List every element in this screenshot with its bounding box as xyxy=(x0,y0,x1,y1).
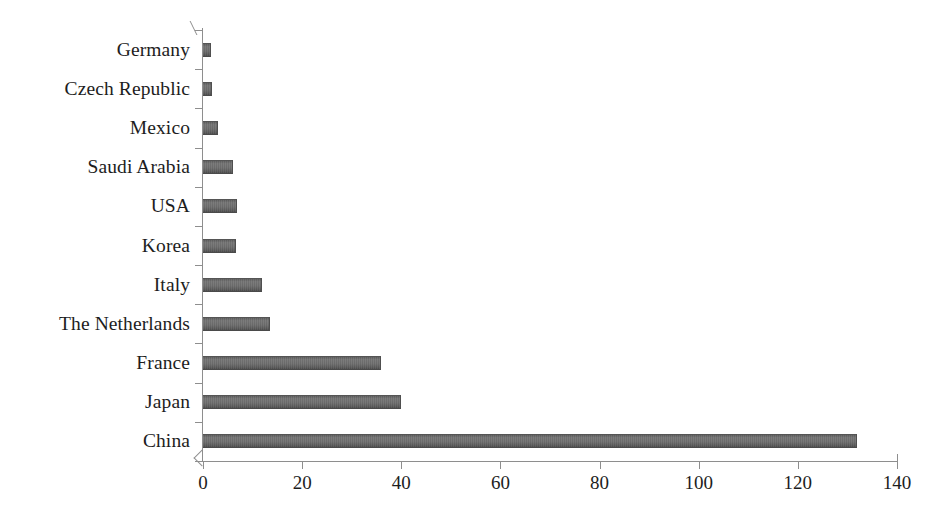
x-axis-tick-label: 40 xyxy=(392,472,411,494)
x-axis-tick-label: 140 xyxy=(883,472,912,494)
x-axis-tick xyxy=(699,461,700,469)
x-axis-origin-arrow xyxy=(194,450,211,467)
bar-chart: GermanyCzech RepublicMexicoSaudi ArabiaU… xyxy=(0,0,948,531)
y-axis-line xyxy=(202,28,203,462)
bar-france xyxy=(203,356,381,370)
category-label: Korea xyxy=(0,236,190,256)
y-axis-tick xyxy=(195,422,203,423)
y-axis-tick xyxy=(195,304,203,305)
category-label: Italy xyxy=(0,275,190,295)
category-label: Mexico xyxy=(0,118,190,138)
category-label: USA xyxy=(0,196,190,216)
bar-italy xyxy=(203,278,262,292)
bar-korea xyxy=(203,239,236,253)
category-label: Germany xyxy=(0,40,190,60)
y-axis-tick xyxy=(195,108,203,109)
category-label: Saudi Arabia xyxy=(0,157,190,177)
x-axis-line xyxy=(203,461,898,462)
x-axis-tick xyxy=(500,461,501,469)
x-axis-tick-label: 100 xyxy=(684,472,713,494)
bar-mexico xyxy=(203,121,218,135)
x-axis-tick xyxy=(401,461,402,469)
category-label: China xyxy=(0,431,190,451)
y-axis-tick xyxy=(195,461,203,462)
y-axis-top-artifact xyxy=(190,21,212,35)
y-axis-tick xyxy=(195,69,203,70)
x-axis-tick xyxy=(203,461,204,469)
x-axis-tick xyxy=(600,461,601,469)
x-axis-tick xyxy=(798,461,799,469)
y-axis-tick xyxy=(195,265,203,266)
category-label: Czech Republic xyxy=(0,79,190,99)
category-label: France xyxy=(0,353,190,373)
x-axis-tick-label: 60 xyxy=(491,472,510,494)
category-label: Japan xyxy=(0,392,190,412)
x-axis-tick xyxy=(302,461,303,469)
plot-area: GermanyCzech RepublicMexicoSaudi ArabiaU… xyxy=(0,0,948,531)
y-axis-tick xyxy=(195,226,203,227)
x-axis-tick-label: 120 xyxy=(784,472,813,494)
bar-saudi-arabia xyxy=(203,160,233,174)
y-axis-tick xyxy=(195,148,203,149)
bar-germany xyxy=(203,43,211,57)
bar-usa xyxy=(203,199,237,213)
category-label: The Netherlands xyxy=(0,314,190,334)
bar-the-netherlands xyxy=(203,317,270,331)
bar-china xyxy=(203,434,857,448)
bar-czech-republic xyxy=(203,82,212,96)
x-axis-tick-label: 0 xyxy=(198,472,208,494)
y-axis-tick xyxy=(195,30,203,31)
bar-japan xyxy=(203,395,401,409)
y-axis-tick xyxy=(195,383,203,384)
x-axis-tick-label: 20 xyxy=(293,472,312,494)
y-axis-tick xyxy=(195,343,203,344)
x-axis-tick xyxy=(897,461,898,469)
x-axis-tick-label: 80 xyxy=(590,472,609,494)
y-axis-tick xyxy=(195,187,203,188)
